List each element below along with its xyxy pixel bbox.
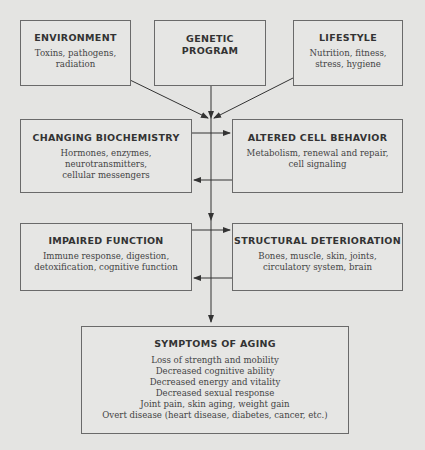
altered-cell-behavior-box: ALTERED CELL BEHAVIOR Metabolism, renewa…: [232, 119, 403, 193]
lifestyle-desc: Nutrition, fitness, stress, hygiene: [294, 48, 402, 70]
structural-deterioration-box: STRUCTURAL DETERIORATION Bones, muscle, …: [232, 223, 403, 291]
changing-biochemistry-desc: Hormones, enzymes, neurotransmitters, ce…: [21, 148, 191, 181]
impaired-function-box: IMPAIRED FUNCTION Immune response, diges…: [20, 223, 192, 291]
structural-deterioration-title: STRUCTURAL DETERIORATION: [233, 235, 402, 247]
symptom-item: Overt disease (heart disease, diabetes, …: [82, 410, 348, 421]
symptom-item: Decreased cognitive ability: [82, 366, 348, 377]
environment-title: ENVIRONMENT: [21, 32, 130, 44]
altered-cell-behavior-desc: Metabolism, renewal and repair, cell sig…: [233, 148, 402, 170]
impaired-function-desc: Immune response, digestion, detoxificati…: [21, 251, 191, 273]
changing-biochemistry-box: CHANGING BIOCHEMISTRY Hormones, enzymes,…: [20, 119, 192, 193]
genetic-program-title: GENETIC PROGRAM: [155, 33, 265, 57]
lifestyle-box: LIFESTYLE Nutrition, fitness, stress, hy…: [293, 20, 403, 86]
symptom-item: Loss of strength and mobility: [82, 355, 348, 366]
symptom-item: Decreased energy and vitality: [82, 377, 348, 388]
symptoms-of-aging-title: SYMPTOMS OF AGING: [82, 338, 348, 350]
environment-desc: Toxins, pathogens, radiation: [21, 48, 130, 70]
lifestyle-title: LIFESTYLE: [294, 32, 402, 44]
structural-deterioration-desc: Bones, muscle, skin, joints, circulatory…: [233, 251, 402, 273]
symptoms-list: Loss of strength and mobility Decreased …: [82, 355, 348, 421]
impaired-function-title: IMPAIRED FUNCTION: [21, 235, 191, 247]
environment-box: ENVIRONMENT Toxins, pathogens, radiation: [20, 20, 131, 86]
symptom-item: Joint pain, skin aging, weight gain: [82, 399, 348, 410]
altered-cell-behavior-title: ALTERED CELL BEHAVIOR: [233, 132, 402, 144]
symptoms-of-aging-box: SYMPTOMS OF AGING Loss of strength and m…: [81, 326, 349, 434]
symptom-item: Decreased sexual response: [82, 388, 348, 399]
changing-biochemistry-title: CHANGING BIOCHEMISTRY: [21, 132, 191, 144]
genetic-program-box: GENETIC PROGRAM: [154, 20, 266, 86]
